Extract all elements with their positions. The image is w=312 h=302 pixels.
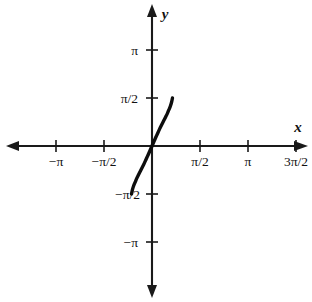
x-axis-left-arrowhead — [6, 141, 19, 151]
x-tick-label-pi: π — [245, 154, 252, 169]
y-axis-down-arrowhead — [147, 285, 157, 298]
x-tick-label-pi-over-2: π/2 — [191, 154, 208, 169]
x-tick-label-3pi-over-2: 3π/2 — [284, 154, 308, 169]
y-axis-up-arrowhead — [147, 4, 157, 17]
x-axis-label: x — [293, 119, 302, 135]
y-tick-label-pi: π — [131, 43, 138, 58]
x-tick-label-neg-pi-over-2: −π/2 — [92, 154, 117, 169]
y-tick-label-neg-pi-over-2: −π/2 — [115, 187, 140, 202]
y-axis-label: y — [160, 6, 169, 22]
x-tick-label-neg-pi: −π — [49, 154, 64, 169]
y-tick-label-neg-pi: −π — [124, 235, 139, 250]
y-tick-label-pi-over-2: π/2 — [121, 91, 138, 106]
math-plot: −π −π/2 π/2 π 3π/2 π π/2 −π/2 −π x y — [0, 0, 312, 302]
